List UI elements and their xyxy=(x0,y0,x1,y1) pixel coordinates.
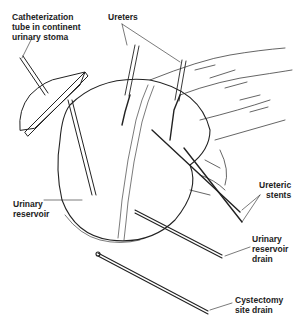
label-ureteric-stents: Ureteric stents xyxy=(259,180,291,200)
drains xyxy=(96,210,222,314)
diagram-artwork xyxy=(0,0,297,322)
label-ureters: Ureters xyxy=(108,12,138,22)
stoma-disc xyxy=(20,72,88,136)
ureters xyxy=(125,45,186,101)
mesentery-tissue xyxy=(150,48,292,195)
surgical-diagram: Catheterization tube in continent urinar… xyxy=(0,0,297,322)
label-reservoir-drain: Urinary reservoir drain xyxy=(252,234,288,264)
label-urinary-reservoir: Urinary reservoir xyxy=(13,199,49,219)
reservoir-outline xyxy=(58,79,210,241)
suture-line xyxy=(65,85,154,243)
label-cystectomy-drain: Cystectomy site drain xyxy=(235,295,283,315)
label-catheterization-tube: Catheterization tube in continent urinar… xyxy=(12,12,80,42)
